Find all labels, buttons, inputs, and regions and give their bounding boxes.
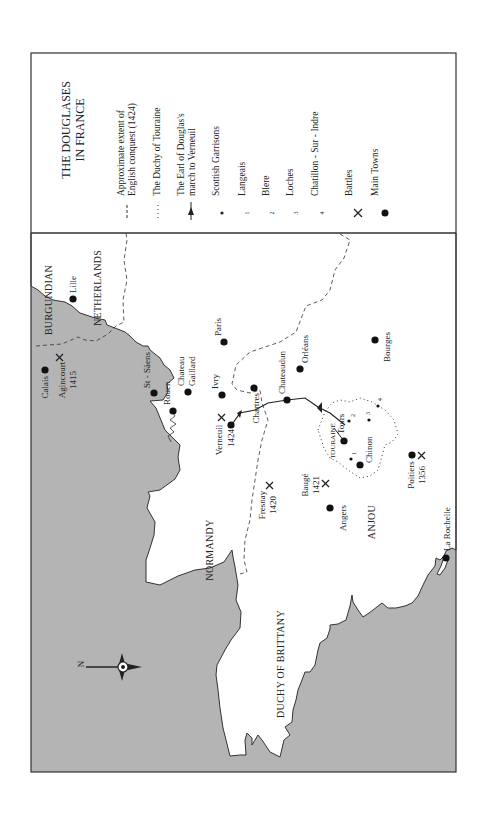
- garrison-number-3: 3: [365, 412, 371, 415]
- town-dot-chateaudun: [283, 396, 290, 403]
- legend-label: Loches: [285, 168, 295, 196]
- town-dot-angers: [326, 504, 333, 511]
- map-title-line1: THE DOUGLASES: [59, 81, 73, 179]
- town-label-orleans: Orléans: [300, 335, 310, 363]
- town-dot-poitiers: [408, 451, 415, 458]
- legend-label: Langeais: [237, 161, 247, 196]
- town-label-chinon: Chinon: [364, 436, 374, 463]
- town-dot-bourges: [371, 336, 378, 343]
- garrison-number-4: 4: [377, 398, 383, 401]
- town-dot-chateau-gaillard: [184, 388, 191, 395]
- town-dot-paris: [220, 338, 227, 345]
- town-dot-ivry: [218, 391, 225, 398]
- legend-label: English conquest (1424): [127, 103, 138, 196]
- town-dot-verneuil: [227, 421, 234, 428]
- town-label-tours: Tours: [336, 413, 346, 434]
- legend-label: Scottish Garrisons: [211, 126, 221, 196]
- town-label-gaillard: Gaillard: [187, 356, 197, 386]
- town-label-la-rochelle: La Rochelle: [442, 507, 452, 551]
- battle-label-fresnay-year: 1420: [268, 496, 278, 515]
- arrow-head-icon: [188, 207, 194, 215]
- legend-label: The Duchy of Touraine: [152, 107, 162, 196]
- legend-label: Approximate extent of: [116, 109, 126, 196]
- legend-label: Chatillon - Sur - Indre: [310, 112, 320, 196]
- region-anjou: ANJOU: [366, 504, 377, 539]
- garrison-number-1: 1: [351, 452, 357, 455]
- battle-label-bauge-year: 1421: [311, 476, 321, 494]
- town-label-paris: Paris: [213, 318, 223, 336]
- town-dot-st-saens: [150, 389, 157, 396]
- garrison-dot-loches: [367, 418, 370, 421]
- battle-label-poitiers-year: 1356: [417, 466, 427, 485]
- town-dot-calais: [41, 366, 48, 373]
- compass-north-label: N: [76, 660, 86, 667]
- legend-label: march to Verneuil: [187, 128, 197, 196]
- town-label-calais: Calais: [40, 376, 50, 399]
- legend-label: The Earl of Douglas's: [176, 113, 186, 196]
- battle-label-bauge: Baugé: [300, 474, 310, 497]
- legend-number: 1: [244, 212, 250, 215]
- legend: Approximate extent of English conquest (…: [116, 103, 389, 220]
- battle-label-verneuil-year: 1424: [226, 429, 236, 448]
- town-dot-chartres: [250, 384, 257, 391]
- town-label-chartres: Chartres: [251, 393, 261, 424]
- town-dot-chinon: [356, 461, 363, 468]
- battle-label-poitiers: Poitiers: [406, 461, 416, 489]
- garrison-dot-chatillon: [376, 404, 379, 407]
- town-dot-lille: [69, 295, 76, 302]
- town-label-bourges: Bourges: [382, 332, 392, 362]
- large-dot-icon: [382, 210, 389, 217]
- town-dot-la-rochelle: [442, 554, 449, 561]
- town-label-chateaudun: Chateaudun: [277, 351, 287, 394]
- town-dot-rouen: [169, 407, 176, 414]
- region-netherlands: NETHERLANDS: [92, 250, 103, 326]
- garrison-dot-langeais: [349, 457, 352, 460]
- town-label-st-saens: St - Säens: [142, 352, 152, 388]
- town-label-ivry: Ivry: [210, 374, 220, 389]
- region-normandy: NORMANDY: [204, 519, 215, 580]
- town-label-rouen: Rouen: [162, 381, 172, 405]
- battle-label-verneuil: Verneuil: [214, 424, 224, 455]
- town-label-angers: Angers: [338, 505, 348, 531]
- legend-label: Blere: [261, 175, 271, 196]
- battle-label-agincourt-year: 1415: [68, 371, 78, 390]
- garrison-number-2: 2: [350, 414, 356, 417]
- crossed-swords-icon: [354, 209, 362, 217]
- legend-number: 4: [319, 212, 325, 215]
- small-dot-icon: [220, 211, 223, 214]
- battle-label-fresnay: Fresnay: [257, 490, 267, 519]
- town-label-lille: Lille: [68, 276, 78, 293]
- town-dot-orleans: [296, 365, 303, 372]
- map-title-line2: IN FRANCE: [73, 98, 87, 161]
- legend-label: Main Towns: [370, 148, 380, 196]
- region-burgundian: BURGUNDIAN: [43, 265, 54, 335]
- garrison-dot-blere: [347, 419, 350, 422]
- legend-label: Battles: [344, 169, 354, 196]
- town-label-chateau: Chateau: [176, 356, 186, 386]
- region-brittany: DUCHY OF BRITTANY: [275, 610, 286, 718]
- legend-number: 2: [269, 212, 275, 215]
- map-figure: THE DOUGLASES IN FRANCE Approximate exte…: [0, 0, 478, 832]
- battle-label-agincourt: Agincourt: [57, 361, 67, 398]
- legend-number: 3: [293, 212, 299, 215]
